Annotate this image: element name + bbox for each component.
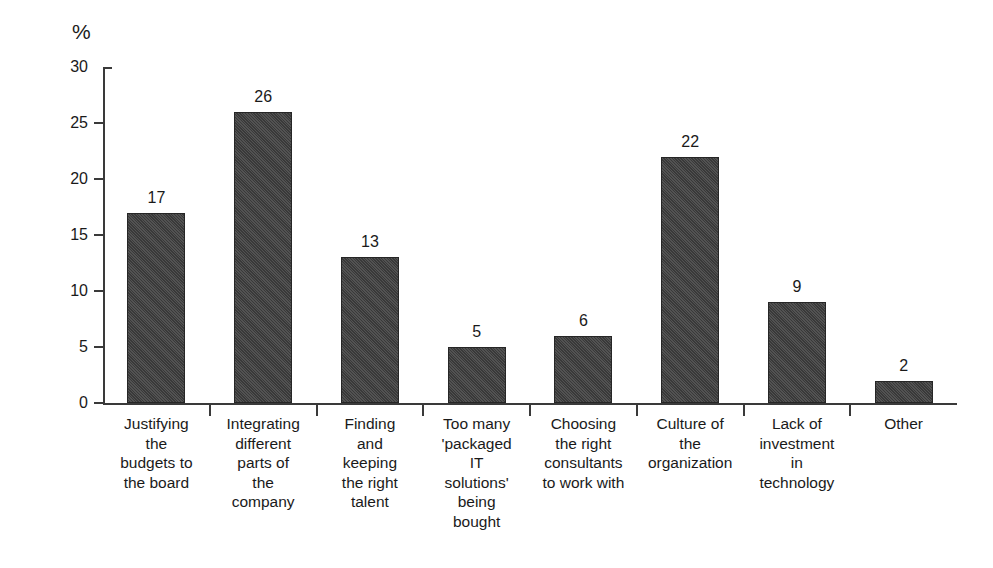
- bar-value-label: 26: [254, 88, 272, 106]
- category-labels-layer: Justifying the budgets to the boardInteg…: [103, 414, 957, 564]
- bar-value-label: 17: [147, 189, 165, 207]
- x-category-label: Culture of the organization: [637, 414, 744, 473]
- bar: [448, 347, 506, 403]
- bars-layer: 172613562292: [103, 67, 957, 403]
- bar-value-label: 9: [792, 278, 801, 296]
- bar: [341, 257, 399, 403]
- y-tick-label: 10: [42, 282, 88, 300]
- x-category-label: Finding and keeping the right talent: [317, 414, 424, 512]
- x-category-label: Justifying the budgets to the board: [103, 414, 210, 492]
- y-tick-label: 20: [42, 170, 88, 188]
- bar: [661, 157, 719, 403]
- bar: [768, 302, 826, 403]
- y-axis-unit-label: %: [72, 20, 91, 44]
- x-category-label: Lack of investment in technology: [744, 414, 851, 492]
- bar: [554, 336, 612, 403]
- bar-chart: % 302520151050 172613562292 Justifying t…: [0, 0, 993, 568]
- bar-value-label: 2: [899, 357, 908, 375]
- bar-value-label: 6: [579, 312, 588, 330]
- y-tick-label: 25: [42, 114, 88, 132]
- x-category-label: Choosing the right consultants to work w…: [530, 414, 637, 492]
- y-tick-label: 30: [42, 58, 88, 76]
- bar-value-label: 22: [681, 133, 699, 151]
- bar-value-label: 13: [361, 233, 379, 251]
- x-category-label: Too many 'packaged IT solutions' being b…: [423, 414, 530, 531]
- y-tick-label: 15: [42, 226, 88, 244]
- bar-value-label: 5: [472, 323, 481, 341]
- y-tick-label: 5: [42, 338, 88, 356]
- x-category-label: Other: [850, 414, 957, 434]
- bar: [234, 112, 292, 403]
- bar: [127, 213, 185, 403]
- y-tick-label: 0: [42, 394, 88, 412]
- bar: [875, 381, 933, 403]
- x-category-label: Integrating different parts of the compa…: [210, 414, 317, 512]
